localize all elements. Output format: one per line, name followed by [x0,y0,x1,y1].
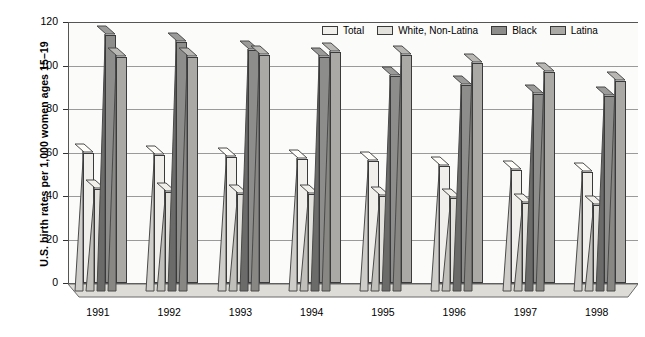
bar-top-face [145,145,167,156]
bar-chart: U.S. birth rates per 1,000 women ages 15… [0,0,645,337]
bar-latina-1992 [187,57,198,283]
bar-top-face [74,143,96,154]
bar-latina-1993 [259,55,270,283]
bar-group-1991 [74,22,127,283]
y-tick-label: 0 [18,277,58,287]
legend-item-latina[interactable]: Latina [550,25,598,36]
bar-group-1995 [359,22,412,283]
y-tick-label: 20 [18,234,58,244]
legend-item-white-non-latina[interactable]: White, Non-Latina [377,25,478,36]
legend-label: Total [343,25,364,36]
bar-top-face [359,151,381,162]
x-tick-label-1996: 1996 [424,306,484,318]
y-tick-label: 60 [18,147,58,157]
y-tick-label: 120 [18,16,58,26]
y-tick-label: 80 [18,103,58,113]
x-tick-label-1993: 1993 [211,306,271,318]
bar-top-face [502,160,524,171]
bar-top-face [573,162,595,173]
legend-item-total[interactable]: Total [322,25,364,36]
bar-group-1998 [573,22,626,283]
legend-label: Black [512,25,536,36]
bar-latina-1991 [116,57,127,283]
bar-latina-1995 [401,55,412,283]
bar-latina-1998 [615,81,626,283]
legend-swatch-icon [377,26,393,35]
x-tick-label-1994: 1994 [282,306,342,318]
bar-top-face [430,156,452,167]
bar-top-face [606,71,628,82]
bar-group-1994 [288,22,341,283]
legend-label: White, Non-Latina [398,25,478,36]
bar-group-1997 [502,22,555,283]
chart-legend: TotalWhite, Non-LatinaBlackLatina [322,25,611,36]
x-tick-label-1995: 1995 [353,306,413,318]
bar-group-1996 [430,22,483,283]
bar-top-face [463,53,485,64]
bar-latina-1994 [330,52,341,283]
x-tick-label-1991: 1991 [68,306,128,318]
bar-group-1992 [145,22,198,283]
bar-groups [68,22,638,283]
bar-top-face [167,32,189,43]
bar-top-face [217,147,239,158]
y-tick-label: 40 [18,190,58,200]
bar-top-face [178,47,200,58]
bar-latina-1997 [544,72,555,283]
x-tick-label-1992: 1992 [139,306,199,318]
legend-swatch-icon [491,26,507,35]
y-tick-label: 100 [18,60,58,70]
bar-group-1993 [217,22,270,283]
bar-top-face [321,42,343,53]
bar-top-face [250,45,272,56]
legend-swatch-icon [550,26,566,35]
x-tick-label-1998: 1998 [567,306,627,318]
bar-latina-1996 [472,63,483,283]
x-tick-label-1997: 1997 [496,306,556,318]
bar-top-face [288,149,310,160]
legend-label: Latina [571,25,598,36]
bar-top-face [96,25,118,36]
legend-item-black[interactable]: Black [491,25,536,36]
bar-top-face [392,45,414,56]
bar-top-face [535,62,557,73]
bar-top-face [107,47,129,58]
legend-swatch-icon [322,26,338,35]
